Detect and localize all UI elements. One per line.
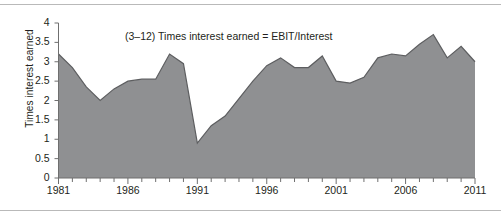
- x-tick-label: 1991: [177, 184, 217, 196]
- x-tick-label: 1996: [247, 184, 287, 196]
- y-axis-ticks: [55, 23, 59, 178]
- y-tick-label: 4: [22, 16, 50, 28]
- y-tick-label: 3.5: [22, 35, 50, 47]
- y-tick-label: 1: [22, 132, 50, 144]
- y-tick-label: 1.5: [22, 113, 50, 125]
- x-tick-label: 2011: [455, 184, 495, 196]
- x-tick-label: 1981: [39, 184, 79, 196]
- y-tick-label: 0: [22, 171, 50, 183]
- x-tick-label: 2006: [386, 184, 426, 196]
- area-fill-path: [59, 35, 476, 178]
- y-tick-label: 3: [22, 55, 50, 67]
- area-series-times-interest-earned: [59, 35, 476, 178]
- x-tick-label: 2001: [316, 184, 356, 196]
- figure: Times interest earned 00.511.522.533.54 …: [0, 0, 501, 216]
- chart-annotation: (3–12) Times interest earned = EBIT/Inte…: [120, 28, 337, 44]
- y-tick-label: 0.5: [22, 152, 50, 164]
- y-tick-label: 2: [22, 94, 50, 106]
- y-tick-label: 2.5: [22, 74, 50, 86]
- x-tick-label: 1986: [108, 184, 148, 196]
